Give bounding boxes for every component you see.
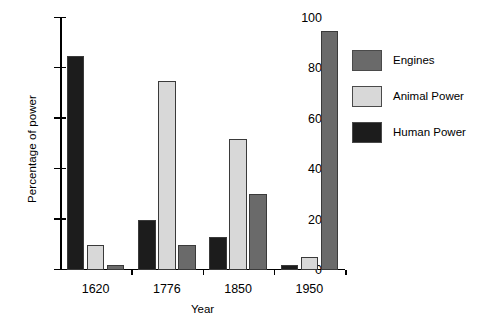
- bar-1850-animal-power: [229, 139, 247, 270]
- x-tick: [203, 270, 205, 275]
- y-tick-cap: [60, 117, 66, 119]
- y-axis-line: [60, 18, 62, 270]
- legend-label: Animal Power: [393, 90, 464, 102]
- bar-1950-engines: [321, 31, 339, 270]
- bar-1620-human-power: [67, 56, 85, 270]
- plot-area: 020406080100 1620177618501950: [60, 18, 345, 270]
- x-tick: [345, 270, 347, 275]
- y-tick-cap: [60, 67, 66, 69]
- bar-1620-engines: [107, 265, 125, 270]
- y-tick-cap: [60, 269, 66, 271]
- x-tick-label-1776: 1776: [153, 282, 181, 296]
- x-axis-title: Year: [60, 303, 345, 315]
- y-tick-label-100: 100: [301, 11, 322, 25]
- x-tick: [274, 270, 276, 275]
- bar-1776-human-power: [138, 220, 156, 270]
- bar-chart-figure: Percentage of power 020406080100 1620177…: [0, 0, 498, 334]
- chart-legend: EnginesAnimal PowerHuman Power: [352, 42, 494, 150]
- bar-1776-engines: [178, 245, 196, 270]
- legend-label: Human Power: [393, 126, 466, 138]
- legend-item-human-power: Human Power: [352, 114, 494, 150]
- y-tick-cap: [60, 218, 66, 220]
- bar-1950-animal-power: [301, 257, 319, 270]
- legend-swatch-animal-power: [352, 86, 382, 107]
- legend-label: Engines: [393, 54, 435, 66]
- y-tick-cap: [60, 17, 66, 19]
- x-tick-label-1850: 1850: [224, 282, 252, 296]
- x-tick: [131, 270, 133, 275]
- bar-1620-animal-power: [87, 245, 105, 270]
- bar-1776-animal-power: [158, 81, 176, 270]
- bar-1850-human-power: [209, 237, 227, 270]
- legend-item-animal-power: Animal Power: [352, 78, 494, 114]
- bar-1950-human-power: [281, 265, 299, 270]
- bar-1850-engines: [249, 194, 267, 270]
- legend-item-engines: Engines: [352, 42, 494, 78]
- legend-swatch-engines: [352, 50, 382, 71]
- x-tick-label-1620: 1620: [82, 282, 110, 296]
- legend-swatch-human-power: [352, 122, 382, 143]
- y-axis-title: Percentage of power: [26, 59, 38, 239]
- y-tick-cap: [60, 168, 66, 170]
- x-tick-label-1950: 1950: [295, 282, 323, 296]
